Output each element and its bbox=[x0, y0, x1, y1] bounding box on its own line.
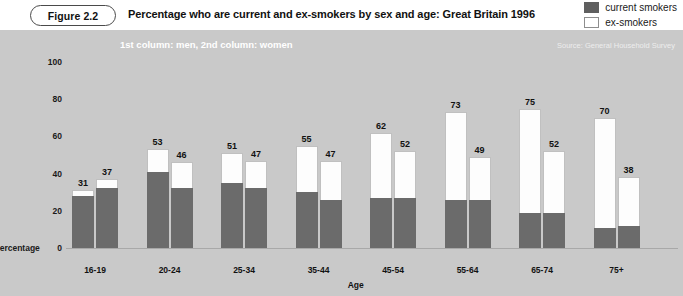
x-axis-category-35-44: 35-44 bbox=[308, 265, 330, 275]
figure-number-badge: Figure 2.2 bbox=[30, 5, 116, 26]
bar-value-label: 52 bbox=[549, 139, 559, 149]
y-axis-tick-20: 20 bbox=[34, 206, 62, 216]
bar-value-label: 47 bbox=[325, 149, 335, 159]
bar-segment-ex-smokers bbox=[394, 151, 416, 198]
bar-segment-ex-smokers bbox=[370, 133, 392, 198]
x-axis-category-25-34: 25-34 bbox=[233, 265, 255, 275]
y-axis-tick-100: 100 bbox=[34, 57, 62, 67]
bar-75+-women[interactable]: 38 bbox=[618, 177, 640, 248]
bar-segment-ex-smokers bbox=[618, 177, 640, 225]
bar-35-44-men[interactable]: 55 bbox=[296, 146, 318, 248]
bar-45-54-men[interactable]: 62 bbox=[370, 133, 392, 248]
chart-subtitle: 1st column: men, 2nd column: women bbox=[120, 39, 293, 50]
bar-value-label: 37 bbox=[102, 167, 112, 177]
y-axis-title: Percentage bbox=[0, 243, 40, 253]
bar-segment-current-smokers bbox=[245, 188, 267, 248]
bar-value-label: 70 bbox=[599, 106, 609, 116]
bar-segment-current-smokers bbox=[96, 188, 118, 248]
bar-16-19-men[interactable]: 31 bbox=[72, 190, 94, 248]
bar-segment-current-smokers bbox=[445, 200, 467, 248]
bar-value-label: 51 bbox=[227, 141, 237, 151]
y-axis-tick-60: 60 bbox=[34, 131, 62, 141]
bar-segment-current-smokers bbox=[594, 228, 616, 248]
axis-baseline bbox=[66, 248, 678, 249]
bar-20-24-men[interactable]: 53 bbox=[147, 149, 169, 248]
legend-swatch-ex-smokers bbox=[584, 17, 599, 28]
x-axis-category-75+: 75+ bbox=[609, 265, 623, 275]
legend-item-current-smokers: current smokers bbox=[584, 1, 677, 14]
bar-segment-ex-smokers bbox=[296, 146, 318, 193]
legend-swatch-current-smokers bbox=[584, 2, 599, 13]
bar-segment-ex-smokers bbox=[147, 149, 169, 171]
y-axis-tick-80: 80 bbox=[34, 94, 62, 104]
bar-segment-ex-smokers bbox=[594, 118, 616, 228]
bar-value-label: 47 bbox=[251, 149, 261, 159]
bar-segment-current-smokers bbox=[543, 213, 565, 248]
bar-55-64-men[interactable]: 73 bbox=[445, 112, 467, 248]
legend: current smokers ex-smokers bbox=[584, 1, 677, 29]
bar-value-label: 31 bbox=[78, 178, 88, 188]
bar-75+-men[interactable]: 70 bbox=[594, 118, 616, 248]
figure-header: Figure 2.2 Percentage who are current an… bbox=[0, 0, 683, 30]
figure-container: Figure 2.2 Percentage who are current an… bbox=[0, 0, 683, 296]
bar-segment-ex-smokers bbox=[445, 112, 467, 199]
bar-segment-ex-smokers bbox=[469, 157, 491, 200]
bar-segment-ex-smokers bbox=[320, 161, 342, 200]
legend-label-ex-smokers: ex-smokers bbox=[605, 17, 657, 28]
legend-item-ex-smokers: ex-smokers bbox=[584, 16, 677, 29]
legend-label-current-smokers: current smokers bbox=[605, 2, 677, 13]
bar-segment-current-smokers bbox=[394, 198, 416, 248]
bar-65-74-men[interactable]: 75 bbox=[519, 109, 541, 249]
bar-segment-current-smokers bbox=[469, 200, 491, 248]
bar-65-74-women[interactable]: 52 bbox=[543, 151, 565, 248]
bar-segment-current-smokers bbox=[221, 183, 243, 248]
x-axis-category-16-19: 16-19 bbox=[84, 265, 106, 275]
bar-16-19-women[interactable]: 37 bbox=[96, 179, 118, 248]
bar-segment-ex-smokers bbox=[96, 179, 118, 188]
bar-value-label: 75 bbox=[525, 97, 535, 107]
bar-segment-ex-smokers bbox=[171, 162, 193, 188]
bar-55-64-women[interactable]: 49 bbox=[469, 157, 491, 248]
bar-value-label: 53 bbox=[152, 137, 162, 147]
y-axis-tick-40: 40 bbox=[34, 169, 62, 179]
bar-segment-ex-smokers bbox=[519, 109, 541, 213]
bar-20-24-women[interactable]: 46 bbox=[171, 162, 193, 248]
bar-25-34-women[interactable]: 47 bbox=[245, 161, 267, 248]
chart-source: Source: General Household Survey bbox=[557, 41, 675, 50]
bar-25-34-men[interactable]: 51 bbox=[221, 153, 243, 248]
figure-title: Percentage who are current and ex-smoker… bbox=[128, 8, 535, 20]
bar-segment-current-smokers bbox=[519, 213, 541, 248]
x-axis-category-55-64: 55-64 bbox=[457, 265, 479, 275]
bar-segment-current-smokers bbox=[618, 226, 640, 248]
x-axis-category-45-54: 45-54 bbox=[382, 265, 404, 275]
bar-value-label: 46 bbox=[176, 150, 186, 160]
bar-segment-ex-smokers bbox=[221, 153, 243, 183]
bar-value-label: 55 bbox=[301, 134, 311, 144]
bar-value-label: 38 bbox=[623, 165, 633, 175]
bar-45-54-women[interactable]: 52 bbox=[394, 151, 416, 248]
bar-segment-current-smokers bbox=[296, 192, 318, 248]
bar-value-label: 49 bbox=[474, 145, 484, 155]
bar-value-label: 62 bbox=[376, 121, 386, 131]
bar-value-label: 73 bbox=[450, 100, 460, 110]
bar-segment-current-smokers bbox=[171, 188, 193, 248]
bar-35-44-women[interactable]: 47 bbox=[320, 161, 342, 248]
bar-segment-current-smokers bbox=[147, 172, 169, 248]
x-axis-category-20-24: 20-24 bbox=[159, 265, 181, 275]
x-axis-category-65-74: 65-74 bbox=[531, 265, 553, 275]
bar-segment-current-smokers bbox=[72, 196, 94, 248]
chart-panel: 1st column: men, 2nd column: women Sourc… bbox=[0, 30, 683, 296]
x-axis-title: Age bbox=[348, 280, 364, 290]
bar-segment-current-smokers bbox=[320, 200, 342, 248]
bar-segment-current-smokers bbox=[370, 198, 392, 248]
bar-segment-ex-smokers bbox=[543, 151, 565, 212]
bar-value-label: 52 bbox=[400, 139, 410, 149]
bar-segment-ex-smokers bbox=[245, 161, 267, 189]
